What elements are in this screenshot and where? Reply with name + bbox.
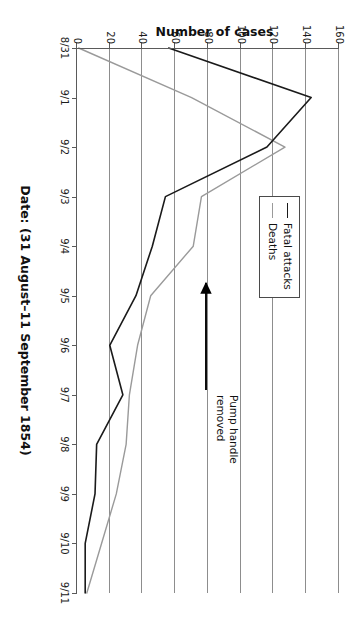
- cholera-outbreak-line-chart: 020406080100120140160 8/319/19/29/39/49/…: [0, 0, 353, 620]
- annotation-arrow-icon: [0, 0, 353, 620]
- rotated-chart-stage: 020406080100120140160 8/319/19/29/39/49/…: [0, 0, 353, 620]
